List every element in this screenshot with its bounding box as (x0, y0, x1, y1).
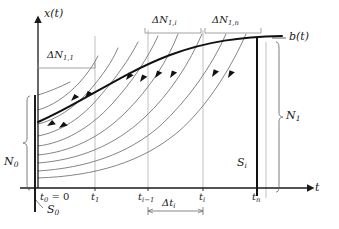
delta-n-1-bracket (38, 63, 95, 68)
delta-n-n-bracket (205, 28, 261, 33)
delta-n-n-subscript: 1,n (228, 19, 239, 27)
x-tick-label-t0: t0 = 0 (40, 192, 69, 202)
delta-t-i-label: Δti (162, 198, 175, 208)
delta-n-i-subscript: 1,i (168, 19, 177, 27)
delta-t-i-measure (148, 207, 203, 215)
delta-n-1-label: ΔN1,1 (47, 50, 74, 60)
n1-subscript: 1 (296, 114, 301, 123)
figure-canvas: x(t) t b(t) ΔN1,1 ΔN1,i ΔN1,n Δti N0 N1 … (0, 0, 339, 229)
x-axis-label: t (315, 182, 319, 193)
y-axis-label: x(t) (44, 8, 63, 19)
delta-n-n-label: ΔN1,n (212, 15, 239, 25)
delta-t-i-symbol: Δt (162, 197, 173, 208)
n0-label: N0 (4, 156, 18, 167)
trajectory-curve (38, 82, 70, 95)
flow-arrowhead (210, 68, 219, 78)
x-tick-tn-subscript: n (256, 196, 260, 204)
x-tick-t0-suffix: = 0 (48, 191, 69, 202)
n0-symbol: N (4, 155, 14, 168)
si-symbol: S (237, 156, 245, 169)
n1-symbol: N (286, 109, 296, 122)
boundary-curve-bt (38, 36, 282, 122)
x-tick-label-ti: ti (199, 192, 205, 202)
x-tick-label-t1: t1 (91, 192, 99, 202)
x-tick-label-tn: tn (252, 192, 260, 202)
delta-n-i-bracket (145, 28, 201, 33)
x-tick-label-ti-1: ti−1 (138, 192, 154, 202)
x-tick-ti-subscript: i (203, 196, 205, 204)
delta-n-i-symbol: ΔN (152, 14, 168, 25)
n1-label: N1 (286, 110, 300, 121)
gridlines (95, 30, 266, 198)
delta-n-i-label: ΔN1,i (152, 15, 177, 25)
flow-arrowhead (168, 69, 177, 79)
axes (20, 22, 308, 188)
delta-n-n-symbol: ΔN (212, 14, 228, 25)
n1-brace (276, 42, 283, 192)
x-tick-t1-subscript: 1 (95, 196, 99, 204)
si-subscript: i (245, 161, 247, 170)
boundary-curve-label: b(t) (289, 31, 309, 42)
s0-subscript: 0 (55, 208, 60, 217)
x-tick-ti-1-subscript: i−1 (142, 196, 154, 204)
delta-n-brackets (38, 28, 261, 68)
flow-arrowhead (138, 74, 147, 84)
delta-n-1-symbol: ΔN (47, 49, 63, 60)
delta-n-1-subscript: 1,1 (63, 54, 74, 62)
n0-brace (23, 96, 30, 190)
si-label: Si (237, 157, 247, 168)
s0-symbol: S (47, 203, 55, 216)
x-tick-t0-subscript: 0 (44, 196, 48, 204)
s0-label: S0 (47, 204, 59, 215)
n0-subscript: 0 (14, 160, 19, 169)
